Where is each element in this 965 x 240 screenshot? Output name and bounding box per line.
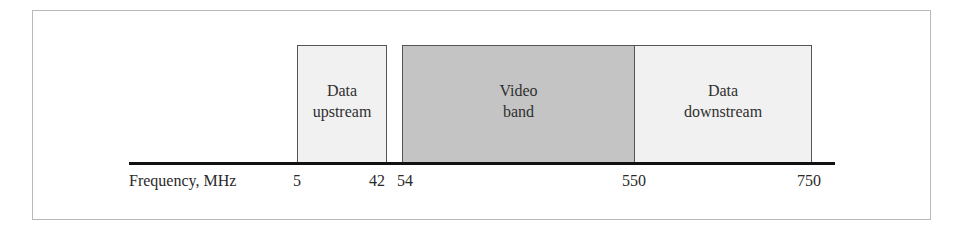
tick-750: 750 [797, 172, 821, 190]
band-label: Video band [499, 80, 537, 122]
band-label-line2: upstream [313, 103, 372, 120]
tick-5: 5 [293, 172, 301, 190]
band-data-downstream: Data downstream [634, 45, 812, 163]
band-video: Video band [402, 45, 635, 163]
band-label-line1: Data [327, 82, 357, 99]
band-label-line2: downstream [684, 103, 762, 120]
band-label-line1: Data [708, 82, 738, 99]
tick-550: 550 [622, 172, 646, 190]
tick-42: 42 [369, 172, 385, 190]
band-label: Data upstream [313, 80, 372, 122]
band-label: Data downstream [684, 80, 762, 122]
band-label-line2: band [503, 103, 534, 120]
axis-label: Frequency, MHz [129, 172, 236, 190]
tick-54: 54 [397, 172, 413, 190]
frequency-axis-line [129, 162, 835, 165]
band-label-line1: Video [499, 82, 537, 99]
band-data-upstream: Data upstream [297, 45, 387, 163]
